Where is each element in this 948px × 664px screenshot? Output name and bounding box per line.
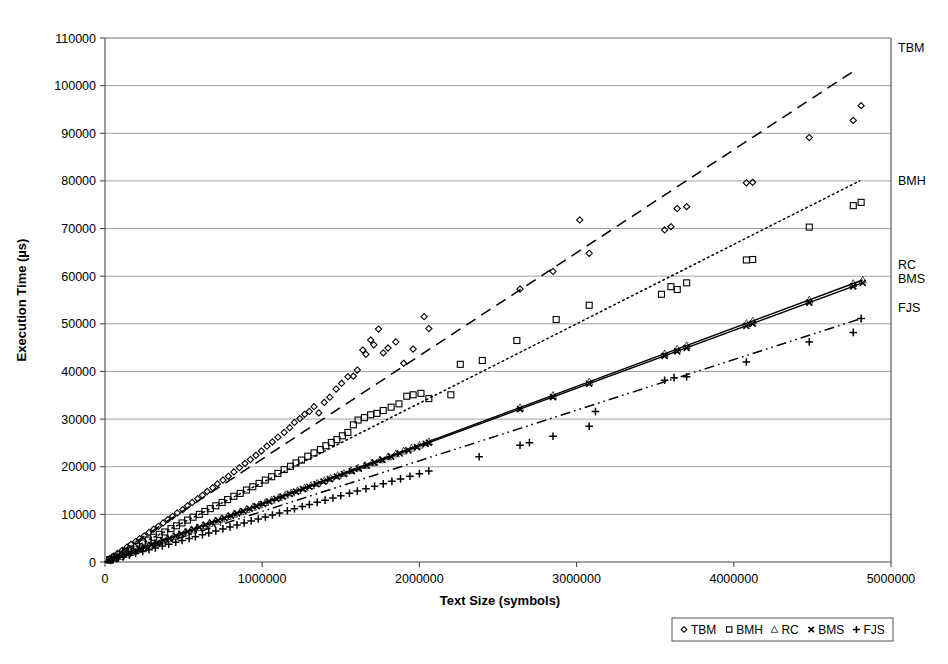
- data-point: [247, 517, 255, 525]
- legend-marker-rc: [771, 626, 778, 632]
- legend-label-rc: RC: [781, 623, 799, 637]
- y-tick-label: 50000: [61, 317, 96, 331]
- data-point: [849, 329, 857, 337]
- data-point: [361, 415, 367, 421]
- data-point: [291, 419, 297, 425]
- data-point: [553, 317, 559, 323]
- x-axis-title: Text Size (symbols): [440, 593, 560, 608]
- legend-group: TBMBMHRCBMSFJS: [672, 618, 893, 641]
- data-point: [275, 434, 281, 440]
- data-point: [368, 412, 374, 418]
- data-point: [240, 519, 248, 527]
- legend-marker-fjs: [853, 626, 860, 633]
- x-tick-label: 1000000: [238, 572, 287, 586]
- data-point: [448, 392, 454, 398]
- data-point: [287, 425, 293, 431]
- y-tick-label: 0: [89, 556, 96, 570]
- legend-marker-bmh: [727, 627, 732, 632]
- data-point: [374, 410, 380, 416]
- data-point: [311, 404, 317, 410]
- gridlines-group: [105, 38, 891, 514]
- series-points-tbm: [107, 103, 865, 562]
- y-tick-label: 110000: [55, 32, 96, 46]
- data-point: [526, 439, 534, 447]
- data-point: [750, 257, 756, 263]
- data-point: [219, 525, 227, 533]
- y-tick-label: 90000: [61, 127, 96, 141]
- data-point: [421, 314, 427, 320]
- series-points-bmh: [107, 199, 864, 562]
- series-points-fjs: [107, 315, 865, 565]
- data-point: [233, 521, 241, 529]
- y-tick-label: 10000: [61, 508, 96, 522]
- data-point: [549, 432, 557, 440]
- x-tick-label: 2000000: [395, 572, 444, 586]
- x-tick-label: 0: [102, 572, 109, 586]
- data-point: [475, 453, 483, 461]
- y-axis-title: Execution Time (µs): [14, 239, 29, 362]
- data-point: [550, 268, 556, 274]
- series-annotation-rc: RC: [898, 258, 916, 272]
- data-point: [254, 515, 262, 523]
- y-tick-label: 100000: [54, 79, 96, 93]
- data-point: [354, 487, 362, 495]
- data-point: [276, 509, 284, 517]
- series-annotation-fjs: FJS: [898, 301, 920, 315]
- data-point: [806, 134, 812, 140]
- data-point: [684, 204, 690, 210]
- data-point: [333, 386, 339, 392]
- y-tick-labels-group: 0100002000030000400005000060000700008000…: [54, 32, 96, 570]
- data-point: [457, 361, 463, 367]
- data-point: [397, 475, 405, 483]
- data-point: [674, 205, 680, 211]
- data-point: [662, 227, 668, 233]
- data-point: [684, 280, 690, 286]
- y-tick-label: 30000: [61, 413, 96, 427]
- y-tick-label: 70000: [61, 222, 96, 236]
- data-point: [192, 533, 200, 541]
- data-point: [242, 460, 248, 466]
- data-point: [592, 408, 600, 416]
- data-point: [418, 390, 424, 396]
- data-point: [226, 523, 234, 531]
- series-annotations-group: TBMBMHRCBMSFJS: [898, 41, 926, 315]
- data-point: [204, 488, 210, 494]
- data-point: [291, 505, 299, 513]
- series-annotation-bmh: BMH: [898, 174, 926, 188]
- data-point: [298, 503, 306, 511]
- data-point: [281, 429, 287, 435]
- data-point: [586, 250, 592, 256]
- data-point: [380, 408, 386, 414]
- data-point: [858, 199, 864, 205]
- data-point: [212, 527, 220, 535]
- data-point: [806, 224, 812, 230]
- data-point: [401, 360, 407, 366]
- data-point: [214, 481, 220, 487]
- data-point: [231, 469, 237, 475]
- series-annotation-tbm: TBM: [898, 41, 924, 55]
- data-point: [327, 394, 333, 400]
- data-point: [264, 443, 270, 449]
- data-point: [516, 441, 524, 449]
- data-point: [850, 117, 856, 123]
- scatter-chart: 0100002000030000400005000060000700008000…: [0, 0, 948, 664]
- chart-container: 0100002000030000400005000060000700008000…: [0, 0, 948, 664]
- data-point: [479, 357, 485, 363]
- x-tick-label: 4000000: [709, 572, 758, 586]
- legend-label-fjs: FJS: [863, 623, 884, 637]
- data-point: [337, 492, 345, 500]
- data-point: [388, 404, 394, 410]
- trendlines-group: [105, 71, 863, 562]
- data-point: [514, 337, 520, 343]
- data-point: [577, 217, 583, 223]
- data-point: [329, 494, 337, 502]
- data-point: [313, 499, 321, 507]
- data-point: [750, 179, 756, 185]
- data-point: [247, 456, 253, 462]
- data-point: [658, 291, 664, 297]
- data-point: [236, 465, 242, 471]
- data-point: [426, 396, 432, 402]
- data-point: [743, 358, 751, 366]
- data-point: [220, 477, 226, 483]
- data-point: [850, 203, 856, 209]
